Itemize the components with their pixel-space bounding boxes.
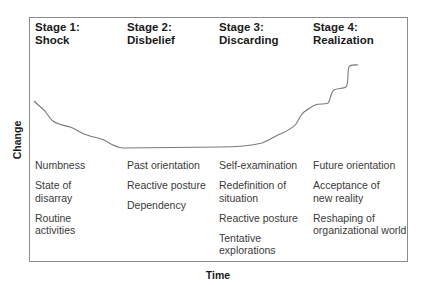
x-axis-label: Time: [206, 269, 230, 281]
stage-4-title: Stage 4: Realization: [313, 21, 374, 47]
characteristic-item: Redefinition of situation: [219, 179, 298, 204]
characteristic-item: Future orientation: [313, 159, 406, 172]
stage-4-number: Stage 4:: [313, 21, 374, 34]
stage-1-number: Stage 1:: [35, 21, 80, 34]
stage-2-title: Stage 2: Disbelief: [127, 21, 175, 47]
stage-3-name: Discarding: [219, 34, 278, 47]
stage-1-title: Stage 1: Shock: [35, 21, 80, 47]
characteristic-item: Self-examination: [219, 159, 298, 172]
stage-2-name: Disbelief: [127, 34, 175, 47]
characteristic-item: Reshaping of organizational world: [313, 212, 406, 237]
stage-1-name: Shock: [35, 34, 80, 47]
characteristic-item: Routine activities: [35, 212, 85, 237]
stage-3-number: Stage 3:: [219, 21, 278, 34]
stage-1-characteristics: Numbness State of disarray Routine activ…: [35, 159, 85, 244]
characteristic-item: Tentative explorations: [219, 232, 298, 257]
characteristic-item: Numbness: [35, 159, 85, 172]
stage-4-characteristics: Future orientation Acceptance of new rea…: [313, 159, 406, 244]
characteristic-item: Dependency: [127, 199, 206, 212]
stage-2-characteristics: Past orientation Reactive posture Depend…: [127, 159, 206, 219]
characteristic-item: Reactive posture: [127, 179, 206, 192]
characteristic-item: Reactive posture: [219, 212, 298, 225]
characteristic-item: Acceptance of new reality: [313, 179, 406, 204]
stage-3-title: Stage 3: Discarding: [219, 21, 278, 47]
y-axis-label: Change: [11, 121, 23, 160]
stage-3-characteristics: Self-examination Redefinition of situati…: [219, 159, 298, 264]
characteristic-item: Past orientation: [127, 159, 206, 172]
characteristic-item: State of disarray: [35, 179, 85, 204]
stage-2-number: Stage 2:: [127, 21, 175, 34]
stage-4-name: Realization: [313, 34, 374, 47]
